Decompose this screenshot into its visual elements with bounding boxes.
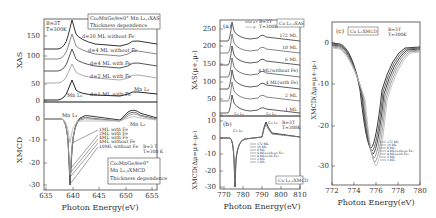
panel-mn-xmcd: 0 -10 -20 -30 635 640 645 650 655 Photon…	[15, 102, 168, 212]
legend-item: 1 ML	[257, 160, 265, 164]
condition-t: T=300K	[259, 24, 278, 29]
y-tick: -10	[205, 150, 216, 158]
y-tick: 100	[203, 78, 216, 86]
annotation-co-l2: Co L₂	[266, 112, 276, 116]
x-tick: 790	[255, 191, 268, 199]
y-tick: 0	[325, 39, 329, 47]
series-label: 10 ML	[282, 45, 297, 50]
y-tick: -30	[318, 162, 329, 170]
annotation-mn-l3: Mn L₃	[67, 92, 82, 98]
annotation-mn-l3: Mn L₃	[62, 112, 77, 118]
y-tick: 50	[207, 95, 216, 103]
y-tick: -20	[318, 122, 329, 130]
legend-mu-minus: μ-	[253, 25, 257, 29]
series-label: 172 ML	[279, 33, 297, 38]
y-tick: 200	[203, 42, 216, 50]
y-tick: -20	[205, 167, 216, 175]
y-tick: -10	[318, 80, 329, 88]
title-box-line1: Co₂MnGe/θ=0° Mn L₂,₃XAS	[90, 15, 160, 21]
y-tick: -30	[29, 181, 40, 189]
annotation-mn-l2: Mn L₂	[134, 86, 149, 92]
x-tick: 780	[413, 187, 426, 195]
y-tick: 0	[36, 115, 40, 123]
x-tick: 776	[369, 187, 383, 195]
x-tick: 770	[217, 191, 230, 199]
x-axis-label: Photon Energy(eV)	[223, 202, 300, 211]
y-axis-label: XAS	[15, 52, 24, 69]
x-axis-label: Photon Energy(eV)	[337, 198, 414, 207]
x-tick: 635	[39, 192, 52, 200]
title-box: Co L₂,₃XAS	[279, 21, 304, 26]
title-box-line2: Thickness dependence	[90, 22, 148, 29]
panel-label-a: (a)	[223, 22, 231, 29]
series-label: d=2 ML with Fe	[90, 73, 131, 79]
x-tick: 645	[92, 192, 105, 200]
y-tick: -30	[205, 183, 216, 191]
title-box: Co L₂,₃XMCD	[278, 178, 309, 183]
y-tick: 150	[27, 32, 40, 40]
y-tick: 0	[36, 97, 40, 105]
condition-t: T=300K	[46, 26, 67, 32]
series-label: 2 ML	[285, 93, 297, 98]
x-tick: 655	[145, 192, 158, 200]
y-tick: 100	[27, 52, 40, 60]
series-label: d=10 ML without Fe	[82, 33, 135, 39]
legend-mu-plus: μ+	[253, 20, 258, 24]
x-tick: 778	[391, 187, 404, 195]
x-tick: 780	[236, 191, 249, 199]
y-tick: -20	[29, 159, 40, 167]
annotation-co-l2: Co L₂	[268, 121, 278, 125]
title-box-line1: Co₂MnGe/θ=0°	[110, 160, 149, 166]
x-tick: 772	[325, 187, 338, 195]
condition-t: T=300K	[282, 125, 301, 130]
series-label: 4 ML(without Fe)	[258, 68, 298, 73]
x-axis-label: Photon Energy(eV)	[61, 203, 138, 212]
x-tick: 774	[347, 187, 361, 195]
annotation-mn-l2: Mn L₂	[130, 121, 145, 127]
x-tick: 650	[119, 192, 132, 200]
panel-label-c: (c)	[336, 27, 344, 34]
series-label: d=1 ML with Fe	[90, 91, 131, 97]
panel-label-b: (b)	[223, 120, 232, 127]
y-tick: 150	[203, 60, 216, 68]
y-tick: 10	[207, 117, 216, 125]
annotation-co-l3: Co L₃	[233, 129, 243, 133]
y-axis-label: XMCD(Δμ=μ+-μ-)	[310, 60, 318, 120]
y-axis-label: XAS(μ+,μ-)	[191, 50, 199, 90]
panel-c-co-l3-xmcd: 0 -10 -20 -30 772 774 776 778 780 Photon…	[310, 22, 427, 207]
panel-b-co-xmcd: 10 0 -10 -20 -30 770 780 790 800 810 Pho…	[191, 116, 309, 211]
panel-a-co-xas: 0 50 100 150 200 250 XAS(μ+,μ-) (a) μ+ μ…	[191, 19, 304, 119]
annotation-co-l3: Co L₃	[234, 112, 244, 116]
series-label: d=4 ML with Fe	[90, 60, 131, 66]
panel-mn-xas: 0 50 100 150 XAS B=3T T=300K Co₂MnGe/θ=0…	[15, 14, 160, 105]
figure: 0 50 100 150 XAS B=3T T=300K Co₂MnGe/θ=0…	[0, 0, 436, 218]
series-label: 4 ML(with Fe)	[266, 80, 299, 85]
title-box: Co L₃XMCD	[350, 29, 378, 34]
x-tick: 810	[293, 191, 306, 199]
y-tick: 250	[203, 25, 216, 33]
x-tick: 640	[66, 192, 79, 200]
y-axis-label: XMCD	[15, 137, 24, 163]
y-tick: -10	[29, 136, 40, 144]
series-label: 1 ML	[285, 107, 297, 112]
series-label: d=4 ML without Fe	[88, 47, 137, 53]
series-label: 6 ML	[285, 57, 297, 62]
y-tick: 0	[212, 134, 216, 142]
condition-t: T=300 K	[143, 149, 164, 154]
title-box-line3: Thickness dependence	[110, 175, 168, 182]
series-label: 10ML without Fe	[99, 144, 138, 149]
title-box-line2: Mn L₂,₃XMCD	[110, 167, 145, 173]
y-tick: 50	[31, 80, 40, 88]
legend-item: 1 ML	[387, 158, 395, 162]
x-tick: 800	[274, 191, 287, 199]
condition-t: T=300K	[388, 32, 407, 37]
y-axis-label: XMCD(Δμ=μ+-μ-)	[191, 130, 199, 190]
